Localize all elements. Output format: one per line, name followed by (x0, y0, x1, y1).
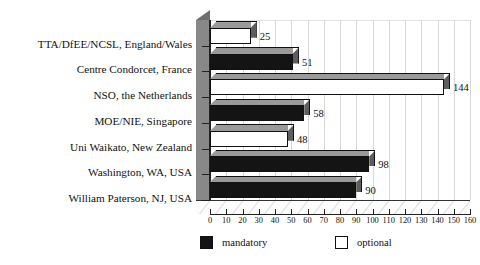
value-axis-tick-label: 80 (336, 216, 344, 225)
value-axis-tick (405, 209, 406, 215)
gridline (389, 20, 390, 200)
bar (210, 156, 369, 172)
bar-top-edge (216, 176, 362, 177)
legend: mandatory optional (0, 232, 480, 260)
value-axis-tick-label: 30 (255, 216, 263, 225)
floor-gridline (425, 200, 438, 214)
floor-gridline (328, 200, 341, 214)
bar (210, 54, 293, 70)
category-axis-tick (202, 174, 210, 175)
floor-gridline (409, 200, 422, 214)
gridline (324, 20, 325, 200)
value-axis-tick-label: 60 (303, 216, 311, 225)
bar-top-edge (216, 99, 310, 100)
legend-item-mandatory: mandatory (200, 236, 267, 249)
value-axis-tick-label: 90 (352, 216, 360, 225)
value-axis-tick (389, 209, 390, 215)
bar-value-label: 58 (313, 108, 324, 119)
bar (210, 79, 444, 95)
value-axis-tick-label: 150 (447, 216, 460, 225)
legend-swatch-optional-icon (335, 236, 348, 249)
value-axis-tick (243, 209, 244, 215)
legend-item-optional: optional (335, 236, 392, 249)
category-label: William Paterson, NJ, USA (0, 192, 192, 204)
value-axis-tick-label: 50 (287, 216, 295, 225)
value-axis-tick (470, 209, 471, 215)
value-axis-tick (340, 209, 341, 215)
gridline (356, 20, 357, 200)
bar-top-edge (216, 21, 257, 22)
category-axis-labels: TTA/DfEE/NCSL, England/Wales Centre Cond… (0, 0, 196, 210)
category-axis-tick (202, 149, 210, 150)
value-axis-tick (308, 209, 309, 215)
floor-gridlines (196, 200, 470, 214)
bar-value-label: 25 (260, 31, 271, 42)
bar-front-face (210, 79, 444, 95)
category-axis-tick (202, 46, 210, 47)
category-label: Uni Waikato, New Zealand (0, 141, 192, 153)
value-axis-tick (275, 209, 276, 215)
bar-top-edge (216, 47, 299, 48)
bar-value-label: 144 (453, 82, 469, 93)
value-axis-tick (356, 209, 357, 215)
bar-value-label: 48 (297, 134, 308, 145)
category-axis-tick (202, 97, 210, 98)
gridline (373, 20, 374, 200)
value-axis-tick-label: 110 (383, 216, 395, 225)
value-axis-tick (324, 209, 325, 215)
gridline (454, 20, 455, 200)
value-axis-tick-label: 160 (464, 216, 477, 225)
bar-top-edge (216, 150, 375, 151)
value-axis-tick-label: 130 (415, 216, 428, 225)
value-axis-tick-label: 140 (431, 216, 444, 225)
category-label: Centre Condorcet, France (0, 63, 192, 75)
value-axis-tick (210, 209, 211, 215)
bar-front-face (210, 105, 304, 121)
floor-gridline (458, 200, 470, 214)
value-axis-tick-label: 70 (320, 216, 328, 225)
bar-front-face (210, 182, 356, 198)
plot-area: 255114458489890 010203040506070809010011… (196, 10, 470, 210)
bar-top-edge (216, 124, 294, 125)
value-axis-tick (373, 209, 374, 215)
legend-label-mandatory: mandatory (222, 237, 267, 248)
floor-gridline (230, 200, 243, 214)
bar-value-label: 51 (302, 57, 313, 68)
bar-top-edge (216, 73, 450, 74)
floor-front-edge (196, 200, 470, 201)
floor-gridline (279, 200, 292, 214)
value-axis-tick (438, 209, 439, 215)
left-wall (196, 20, 210, 200)
category-label: MOE/NIE, Singapore (0, 115, 192, 127)
bar (210, 131, 288, 147)
category-axis-tick (202, 123, 210, 124)
category-label: Washington, WA, USA (0, 166, 192, 178)
legend-swatch-mandatory-icon (200, 236, 213, 249)
bar-front-face (210, 156, 369, 172)
bar (210, 182, 356, 198)
floor-gridline (295, 200, 308, 214)
floor-gridline (360, 200, 373, 214)
gridline (421, 20, 422, 200)
bar (210, 105, 304, 121)
bar-front-face (210, 28, 251, 44)
bar (210, 28, 251, 44)
gridline (405, 20, 406, 200)
value-axis-tick-label: 10 (222, 216, 230, 225)
floor-gridline (263, 200, 276, 214)
value-axis-tick-label: 100 (366, 216, 379, 225)
bar-front-face (210, 131, 288, 147)
value-axis-tick-label: 40 (271, 216, 279, 225)
bar-chart: TTA/DfEE/NCSL, England/Wales Centre Cond… (0, 0, 480, 265)
floor-gridline (393, 200, 406, 214)
bar-value-label: 90 (365, 185, 376, 196)
bar-value-label: 98 (378, 159, 389, 170)
value-axis-tick (454, 209, 455, 215)
value-axis-tick (291, 209, 292, 215)
value-axis-tick (421, 209, 422, 215)
floor-gridline (377, 200, 390, 214)
category-label: NSO, the Netherlands (0, 89, 192, 101)
gridline (438, 20, 439, 200)
floor-gridline (198, 200, 211, 214)
category-axis-tick (202, 200, 210, 201)
